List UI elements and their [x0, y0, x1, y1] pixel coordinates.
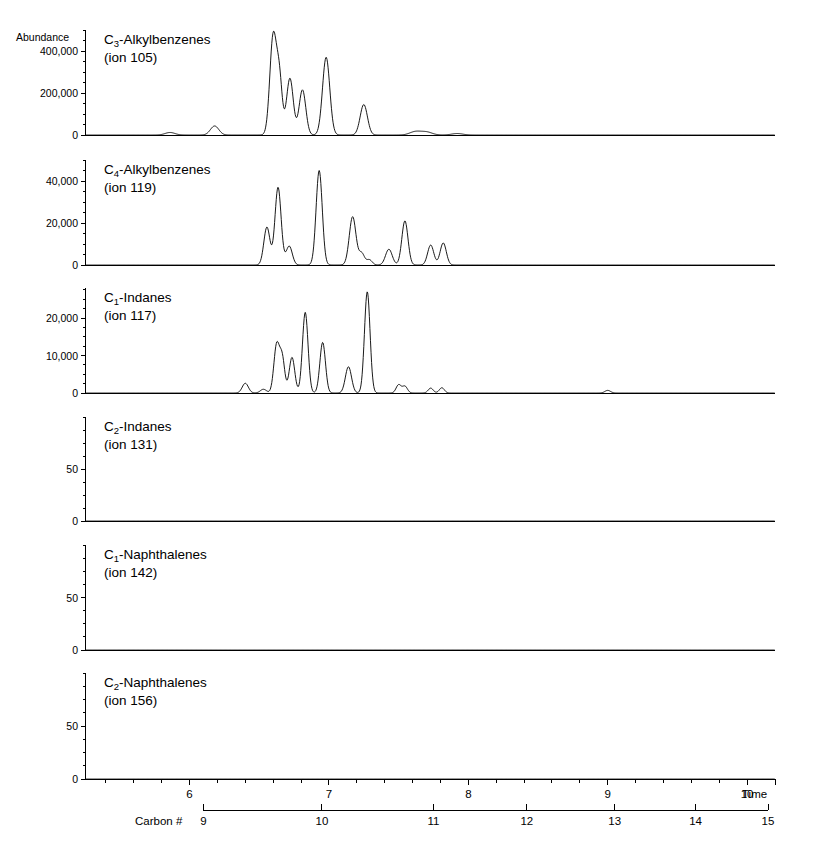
carbon-tick-label: 10 [292, 816, 352, 828]
carbon-tick-label: 15 [738, 816, 798, 828]
carbon-tick-label: 11 [403, 816, 463, 828]
chromatogram-figure: 0200,000400,000C3-Alkylbenzenes(ion 105)… [0, 0, 814, 854]
carbon-axis-ruler [0, 0, 814, 854]
carbon-tick-label: 13 [585, 816, 645, 828]
carbon-tick-label: 9 [173, 816, 233, 828]
carbon-tick-label: 12 [497, 816, 557, 828]
carbon-tick-label: 14 [666, 816, 726, 828]
carbon-axis-label: Carbon # [135, 816, 182, 828]
